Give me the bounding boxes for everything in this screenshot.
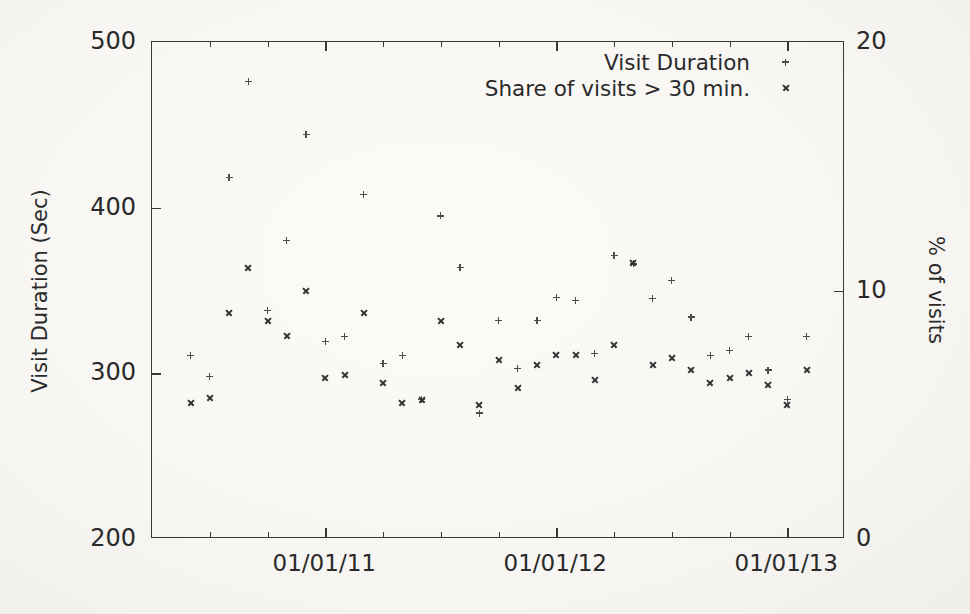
data-point-visit-duration (534, 317, 541, 324)
data-point-visit-duration (726, 347, 733, 354)
data-point-visit-duration (611, 252, 618, 259)
data-point-share-of-visits (322, 374, 329, 381)
x-axis-tick-label: 01/01/12 (485, 549, 625, 577)
legend-item: Share of visits > 30 min. (485, 75, 789, 101)
data-point-visit-duration (303, 131, 310, 138)
data-point-share-of-visits (668, 354, 675, 361)
x-axis-tick-top (441, 42, 442, 47)
data-point-share-of-visits (514, 384, 521, 391)
data-point-share-of-visits (765, 381, 772, 388)
data-point-visit-duration (803, 333, 810, 340)
data-point-visit-duration (283, 237, 290, 244)
y-axis-title: Visit Duration (Sec) (28, 189, 52, 393)
y2-axis-tick-label: 10 (856, 276, 926, 304)
y-axis-tick-label: 200 (58, 524, 136, 552)
data-point-visit-duration (206, 373, 213, 380)
legend-label: Visit Duration (604, 50, 750, 75)
x-axis-tick-label: 01/01/13 (716, 549, 856, 577)
x-axis-tick-top (672, 42, 673, 47)
data-point-share-of-visits (245, 265, 252, 272)
data-point-visit-duration (187, 352, 194, 359)
x-axis-tick-top (325, 42, 326, 51)
x-axis-tick (441, 532, 442, 537)
y2-axis-title: % of visits (924, 236, 948, 344)
data-point-share-of-visits (572, 352, 579, 359)
data-point-share-of-visits (688, 367, 695, 374)
data-point-share-of-visits (611, 342, 618, 349)
data-point-share-of-visits (476, 401, 483, 408)
data-point-visit-duration (322, 338, 329, 345)
y2-axis-tick (834, 291, 843, 292)
data-point-visit-duration (264, 307, 271, 314)
data-point-share-of-visits (553, 352, 560, 359)
x-axis-tick-top (268, 42, 269, 47)
data-point-share-of-visits (399, 399, 406, 406)
x-axis-tick-top (556, 42, 557, 51)
data-point-visit-duration (495, 317, 502, 324)
data-point-visit-duration (341, 333, 348, 340)
data-point-share-of-visits (630, 260, 637, 267)
data-point-visit-duration (553, 294, 560, 301)
data-point-share-of-visits (437, 317, 444, 324)
data-point-share-of-visits (457, 342, 464, 349)
data-point-visit-duration (572, 297, 579, 304)
data-point-visit-duration (649, 295, 656, 302)
data-point-share-of-visits (264, 317, 271, 324)
data-point-share-of-visits (495, 357, 502, 364)
x-axis-tick-top (383, 42, 384, 47)
data-point-visit-duration (380, 360, 387, 367)
data-point-visit-duration (245, 78, 252, 85)
y-axis-tick (152, 373, 161, 374)
data-point-share-of-visits (534, 362, 541, 369)
data-point-visit-duration (457, 264, 464, 271)
data-point-visit-duration (745, 333, 752, 340)
data-point-share-of-visits (726, 374, 733, 381)
data-point-share-of-visits (649, 362, 656, 369)
x-axis-tick (383, 532, 384, 537)
data-point-share-of-visits (187, 399, 194, 406)
data-point-visit-duration (668, 277, 675, 284)
data-point-visit-duration (437, 212, 444, 219)
data-point-visit-duration (591, 350, 598, 357)
data-point-visit-duration (514, 365, 521, 372)
data-point-share-of-visits (784, 401, 791, 408)
data-point-share-of-visits (418, 396, 425, 403)
data-point-visit-duration (765, 367, 772, 374)
data-point-share-of-visits (341, 371, 348, 378)
x-axis-tick-top (614, 42, 615, 47)
x-axis-tick (556, 528, 557, 537)
legend-item: Visit Duration (604, 49, 789, 75)
x-axis-tick-top (730, 42, 731, 47)
data-point-visit-duration (688, 314, 695, 321)
x-axis-tick (787, 528, 788, 537)
x-axis-tick-label: 01/01/11 (254, 549, 394, 577)
x-axis-tick-top (499, 42, 500, 47)
data-point-share-of-visits (303, 287, 310, 294)
figure: Visit Duration (Sec) % of visits 2003004… (0, 0, 970, 614)
y-axis-tick (152, 208, 161, 209)
x-axis-tick-top (210, 42, 211, 47)
data-point-share-of-visits (745, 369, 752, 376)
legend-label: Share of visits > 30 min. (485, 76, 750, 101)
data-point-share-of-visits (206, 394, 213, 401)
y2-axis-tick-label: 0 (856, 524, 926, 552)
y-axis-tick-label: 500 (58, 27, 136, 55)
x-axis-tick (672, 532, 673, 537)
plot-area (151, 41, 844, 538)
x-axis-tick (325, 528, 326, 537)
y-axis-tick-label: 300 (58, 358, 136, 386)
x-axis-tick (210, 532, 211, 537)
y-axis-tick-label: 400 (58, 193, 136, 221)
data-point-share-of-visits (360, 309, 367, 316)
x-axis-tick (499, 532, 500, 537)
legend-marker-cross-icon (782, 85, 789, 92)
data-point-share-of-visits (380, 379, 387, 386)
data-point-share-of-visits (226, 309, 233, 316)
y2-axis-tick-label: 20 (856, 27, 926, 55)
data-point-visit-duration (476, 410, 483, 417)
x-axis-tick (614, 532, 615, 537)
data-point-share-of-visits (803, 367, 810, 374)
data-point-visit-duration (707, 352, 714, 359)
data-point-share-of-visits (707, 379, 714, 386)
data-point-share-of-visits (283, 332, 290, 339)
